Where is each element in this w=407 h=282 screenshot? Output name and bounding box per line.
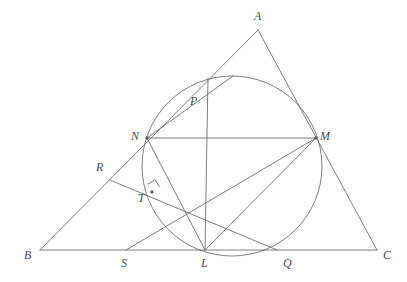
point-label-l: L: [201, 257, 208, 269]
point-label-r: R: [96, 161, 103, 173]
point-dot-n: [145, 136, 148, 139]
point-label-p: P: [190, 95, 197, 107]
geometry-figure: ABCNMPRTSLQ: [0, 0, 407, 282]
circle-group: [142, 76, 322, 256]
point-label-c: C: [383, 249, 391, 261]
chord-nl: [147, 138, 205, 250]
side-ac: [258, 30, 377, 250]
line-l-through-p-to-circle: [205, 78, 208, 250]
line-r-to-q: [110, 180, 277, 250]
point-label-n: N: [131, 130, 139, 142]
point-label-t: T: [138, 192, 145, 204]
point-label-q: Q: [283, 257, 292, 269]
point-label-s: S: [121, 257, 127, 269]
point-label-m: M: [320, 130, 330, 142]
point-dot-m: [314, 136, 317, 139]
right-angle-marker: [147, 180, 159, 188]
point-dot-t: [150, 190, 153, 193]
side-ab: [40, 30, 258, 250]
point-label-b: B: [24, 249, 31, 261]
main-circle: [142, 76, 322, 256]
line-m-to-s: [126, 138, 316, 250]
point-label-a: A: [254, 10, 261, 22]
geometry-canvas: [0, 0, 407, 282]
right-angle-at-t: [147, 180, 159, 188]
